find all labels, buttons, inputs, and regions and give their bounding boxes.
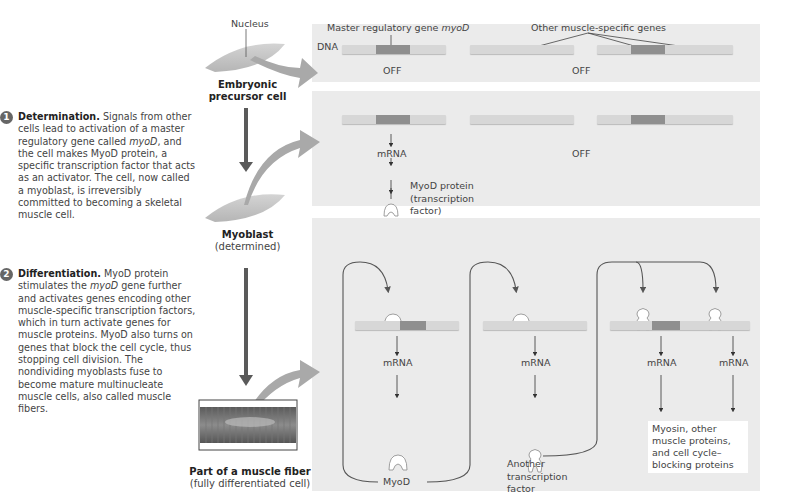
- off-label: OFF: [572, 148, 590, 159]
- dna-segment: [597, 45, 733, 54]
- down-arrow-1: [239, 162, 253, 172]
- myoblast-cell-shape: [205, 194, 285, 222]
- dna-segment: [597, 115, 733, 124]
- mrna-label: mRNA: [719, 357, 748, 368]
- mrna-label: mRNA: [647, 357, 676, 368]
- dna-segment-myod: [342, 45, 446, 54]
- myod-feedback-loop: [343, 262, 388, 482]
- myod-protein-icon: [389, 455, 407, 470]
- muscle-fiber-caption: Part of a muscle fiber(fully differentia…: [180, 466, 320, 490]
- dna-label: DNA: [317, 41, 338, 52]
- muscle-proteins-box: Myosin, othermuscle proteins,and cell cy…: [648, 421, 748, 473]
- mrna-label: mRNA: [521, 357, 550, 368]
- nucleus-label: Nucleus: [231, 18, 269, 29]
- dna-segment-myod: [355, 321, 459, 330]
- myoblast-caption: Myoblast(determined): [200, 229, 295, 253]
- down-arrow-2: [239, 375, 253, 386]
- dna-segment: [470, 45, 574, 54]
- off-label: OFF: [383, 65, 401, 76]
- dna-segment: [610, 321, 750, 330]
- curved-arrow-to-panel2: [244, 130, 320, 205]
- myod-protein-icon: [384, 204, 398, 216]
- another-tf-label: Anothertranscriptionfactor: [507, 458, 567, 496]
- dna-segment-myod: [342, 115, 446, 124]
- dna-segment: [483, 321, 587, 330]
- dna-segment: [470, 115, 574, 124]
- myod-to-tf-gene-arrow: [427, 262, 516, 482]
- mrna-label: mRNA: [383, 357, 412, 368]
- mrna-label: mRNA: [377, 148, 406, 159]
- master-gene-label: Master regulatory gene myoD: [327, 22, 469, 33]
- embryonic-cell-caption: Embryonicprecursor cell: [200, 79, 295, 103]
- off-label: OFF: [572, 65, 590, 76]
- myod-label: MyoD: [381, 476, 412, 487]
- other-genes-label: Other muscle-specific genes: [531, 22, 666, 33]
- tf-to-muscle-genes-arrow: [543, 262, 643, 456]
- myod-protein-label: MyoD protein(transcriptionfactor): [410, 180, 474, 218]
